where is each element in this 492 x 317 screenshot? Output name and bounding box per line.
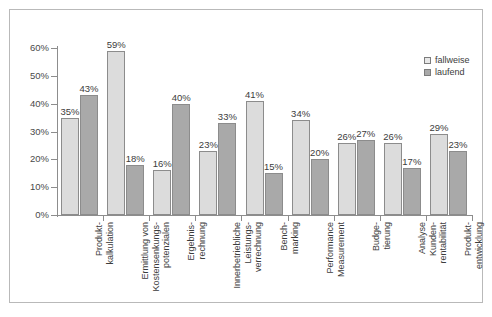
bar-laufend[interactable]: 18% (126, 165, 144, 215)
x-axis-tick (380, 216, 381, 221)
x-axis-label: Produkt- kalkulation (94, 222, 115, 317)
bar-fallweise[interactable]: 26% (338, 143, 356, 215)
bar-value-label: 41% (245, 90, 264, 100)
legend-item[interactable]: fallweise (424, 54, 470, 66)
x-axis-label: Innerbetriebliche Leistungs- verrechnung (232, 222, 264, 317)
legend-swatch-icon (424, 57, 431, 64)
bar-group: 34%20% (292, 48, 330, 215)
bar-group: 26%27% (338, 48, 376, 215)
bar-fallweise[interactable]: 59% (107, 51, 125, 215)
x-axis-tick (472, 216, 473, 221)
x-axis-tick (288, 216, 289, 221)
bar-value-label: 35% (61, 107, 80, 117)
bar-value-label: 15% (264, 162, 283, 172)
legend-swatch-icon (424, 69, 431, 76)
bar-laufend[interactable]: 23% (449, 151, 467, 215)
bar-value-label: 27% (356, 129, 375, 139)
bar-fallweise[interactable]: 34% (292, 120, 310, 215)
y-axis-tick-label: 20% (15, 154, 49, 163)
bar-group: 35%43% (61, 48, 99, 215)
y-axis-tick-label: 0% (15, 210, 49, 219)
chart-frame: 0%10%20%30%40%50%60% 35%43%59%18%16%40%2… (9, 9, 483, 303)
bar-group: 26%17% (384, 48, 422, 215)
bar-value-label: 59% (107, 40, 126, 50)
x-axis-label: Bench- marking (279, 222, 300, 317)
x-axis-label: Ermittlung von Kostensenkungs- potenzial… (140, 222, 172, 317)
legend-label: laufend (435, 66, 465, 78)
bar-group: 41%15% (246, 48, 284, 215)
bar-value-label: 16% (153, 159, 172, 169)
x-axis-label: Performance Measurement (325, 222, 346, 317)
plot-area: 35%43%59%18%16%40%23%33%41%15%34%20%26%2… (57, 48, 472, 215)
x-axis-tick (426, 216, 427, 221)
bar-laufend[interactable]: 43% (80, 95, 98, 215)
bar-value-label: 34% (291, 109, 310, 119)
x-axis-tick (149, 216, 150, 221)
bar-laufend[interactable]: 17% (403, 168, 421, 215)
bar-fallweise[interactable]: 41% (246, 101, 264, 215)
bar-group: 59%18% (107, 48, 145, 215)
x-axis-label: Produkt- entwicklung (463, 222, 484, 317)
bar-laufend[interactable]: 20% (311, 159, 329, 215)
x-axis-tick (334, 216, 335, 221)
y-axis-tick-label: 10% (15, 182, 49, 191)
bar-fallweise[interactable]: 29% (430, 134, 448, 215)
bar-value-label: 29% (429, 123, 448, 133)
bar-group: 16%40% (153, 48, 191, 215)
bar-laufend[interactable]: 40% (172, 104, 190, 215)
x-axis-label: Budge- tierung (371, 222, 392, 317)
x-axis-label: Ergebnis- rechnung (186, 222, 207, 317)
bar-value-label: 43% (80, 84, 99, 94)
bar-value-label: 33% (218, 112, 237, 122)
y-axis-tick-label: 40% (15, 99, 49, 108)
legend-label: fallweise (435, 54, 470, 66)
bar-value-label: 40% (172, 93, 191, 103)
legend-item[interactable]: laufend (424, 66, 470, 78)
bar-laufend[interactable]: 33% (218, 123, 236, 215)
x-axis-line (57, 215, 473, 216)
bar-value-label: 26% (337, 132, 356, 142)
bar-fallweise[interactable]: 16% (153, 170, 171, 215)
x-axis-tick (241, 216, 242, 221)
bar-laufend[interactable]: 27% (357, 140, 375, 215)
y-axis-tick (51, 215, 57, 216)
x-axis-tick (103, 216, 104, 221)
bar-value-label: 20% (310, 148, 329, 158)
bar-value-label: 26% (383, 132, 402, 142)
bar-fallweise[interactable]: 23% (199, 151, 217, 215)
y-axis-tick-label: 30% (15, 127, 49, 136)
bar-value-label: 23% (448, 140, 467, 150)
chart-legend: fallweiselaufend (424, 54, 470, 78)
x-axis-tick (195, 216, 196, 221)
x-axis-label: Analyse Kunden- rentabilität (417, 222, 449, 317)
bar-value-label: 18% (126, 154, 145, 164)
bar-fallweise[interactable]: 35% (61, 118, 79, 215)
bar-value-label: 17% (402, 157, 421, 167)
bar-fallweise[interactable]: 26% (384, 143, 402, 215)
bar-value-label: 23% (199, 140, 218, 150)
y-axis-tick-label: 60% (15, 43, 49, 52)
bar-laufend[interactable]: 15% (265, 173, 283, 215)
y-axis-tick-label: 50% (15, 71, 49, 80)
bar-group: 23%33% (199, 48, 237, 215)
